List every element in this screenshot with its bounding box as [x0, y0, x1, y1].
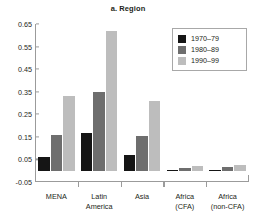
legend-swatch-icon	[178, 46, 186, 54]
chart-title: a. Region	[0, 4, 256, 13]
y-axis-tick-label: -0.05	[16, 178, 36, 187]
legend-label: 1990–99	[191, 56, 219, 65]
bar	[124, 155, 136, 171]
y-axis-tick-label: 0.05	[18, 155, 36, 164]
legend-item[interactable]: 1970–79	[178, 33, 242, 44]
x-axis-category-label: Africa(CFA)	[163, 192, 206, 211]
bar	[149, 101, 161, 171]
y-axis-tick-label: 0.55	[18, 42, 36, 51]
x-axis-tick-mark	[206, 182, 207, 187]
legend-swatch-icon	[178, 35, 186, 43]
y-axis-tick-label: 0.65	[18, 20, 36, 29]
x-axis-category-line: Africa	[206, 192, 249, 202]
bar	[167, 170, 179, 171]
legend: 1970–791980–891990–99	[172, 28, 247, 71]
bar	[192, 166, 204, 171]
bar-group	[35, 24, 78, 182]
bar	[81, 133, 93, 170]
x-axis-tick-mark	[163, 182, 164, 187]
bar-chart: a. Region -0.050.050.150.250.350.450.550…	[0, 0, 256, 222]
x-axis-category-line: Asia	[121, 192, 164, 202]
legend-label: 1970–79	[191, 34, 219, 43]
bar	[106, 31, 118, 171]
bar-group	[121, 24, 164, 182]
x-axis-category-line: Latin	[78, 192, 121, 202]
bar	[209, 170, 221, 171]
bar	[222, 167, 234, 171]
x-axis-category-label: LatinAmerica	[78, 192, 121, 211]
bar	[136, 136, 148, 171]
x-axis-category-line: America	[78, 202, 121, 212]
legend-item[interactable]: 1980–89	[178, 44, 242, 55]
x-axis-category-label: Africa(non-CFA)	[206, 192, 249, 211]
x-axis-category-label: Asia	[121, 192, 164, 202]
x-axis-category-line: MENA	[35, 192, 78, 202]
bar	[38, 157, 50, 171]
x-axis-tick-mark	[121, 182, 122, 187]
bar	[63, 96, 75, 170]
x-axis-category-line: (non-CFA)	[206, 202, 249, 212]
legend-item[interactable]: 1990–99	[178, 55, 242, 66]
bar-group	[78, 24, 121, 182]
bar	[234, 165, 246, 171]
legend-swatch-icon	[178, 57, 186, 65]
y-axis-tick-label: 0.25	[18, 110, 36, 119]
bar	[93, 92, 105, 171]
x-axis-category-line: Africa	[163, 192, 206, 202]
x-axis-category-label: MENA	[35, 192, 78, 202]
x-axis-category-line: (CFA)	[163, 202, 206, 212]
y-axis-tick-label: 0.45	[18, 65, 36, 74]
x-axis-tick-mark	[78, 182, 79, 187]
bar	[179, 168, 191, 171]
legend-label: 1980–89	[191, 45, 219, 54]
y-axis-tick-label: 0.15	[18, 132, 36, 141]
y-axis-tick-label: 0.35	[18, 87, 36, 96]
bar	[51, 135, 63, 171]
